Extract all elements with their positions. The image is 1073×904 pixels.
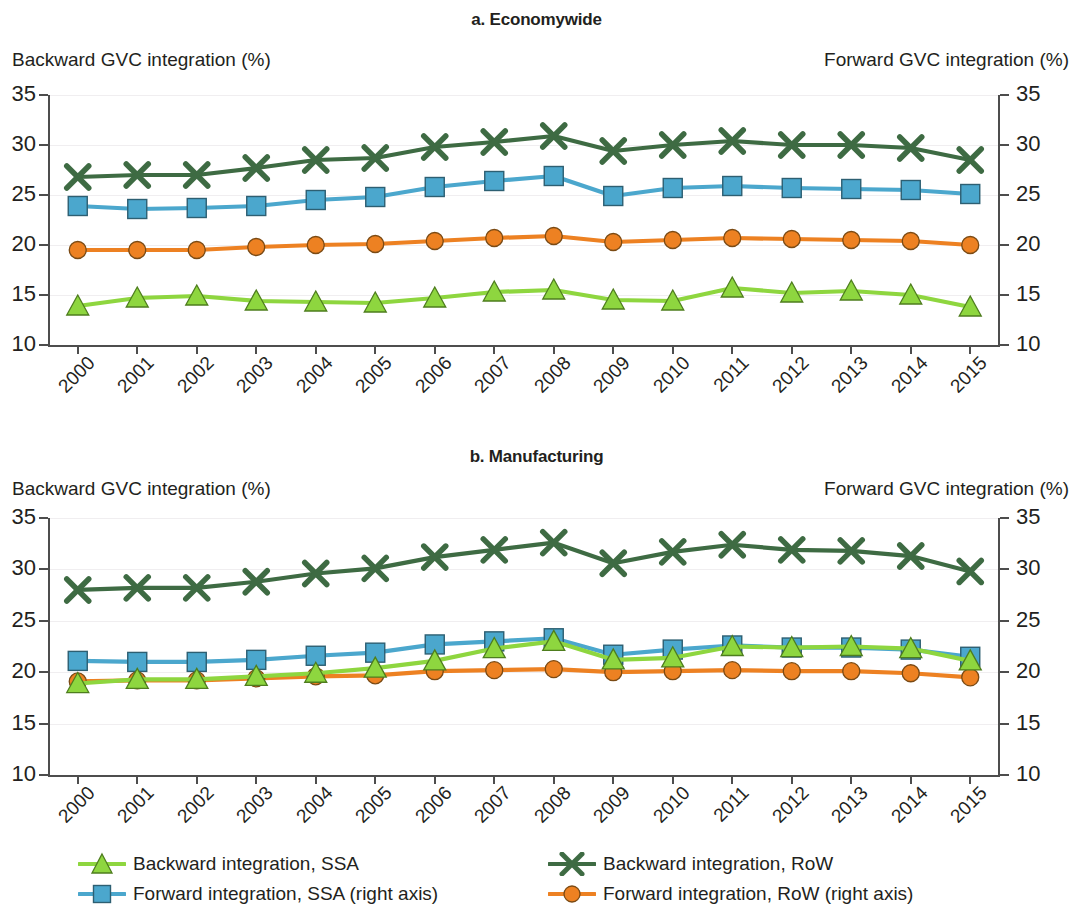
left-axis-tick — [39, 774, 48, 776]
x-axis-tick-label: 2013 — [809, 782, 873, 846]
left-axis-tick-label: 15 — [0, 712, 36, 734]
left-axis-tick-label: 35 — [0, 506, 36, 528]
x-axis-tick-label: 2012 — [750, 782, 814, 846]
bottom-axis-line — [48, 775, 1000, 777]
circle-marker — [843, 663, 860, 680]
x-axis-tick — [255, 775, 257, 784]
x-axis-tick — [910, 775, 912, 784]
circle-marker — [962, 669, 979, 686]
left-axis-tick — [39, 723, 48, 725]
x-axis-tick-label: 2001 — [95, 782, 159, 846]
x-axis-tick-label: 2004 — [274, 782, 338, 846]
x-axis-tick — [315, 775, 317, 784]
x-axis-tick — [731, 775, 733, 784]
x-axis-tick — [374, 775, 376, 784]
x-axis-tick-label: 2011 — [690, 782, 754, 846]
legend-swatch-cross-x-marker — [548, 852, 596, 876]
right-axis-tick-label: 25 — [1016, 609, 1071, 631]
x-axis-tick-label: 2015 — [928, 782, 992, 846]
right-axis-tick — [1000, 568, 1009, 570]
x-axis-tick-label: 2006 — [393, 782, 457, 846]
legend-item: Backward integration, RoW — [548, 852, 1048, 876]
series-line — [78, 543, 971, 590]
right-axis-tick-label: 15 — [1016, 712, 1071, 734]
right-axis-tick — [1000, 517, 1009, 519]
x-axis-tick-label: 2005 — [333, 782, 397, 846]
left-axis-tick-label: 25 — [0, 609, 36, 631]
x-axis-tick — [493, 775, 495, 784]
right-axis-tick — [1000, 723, 1009, 725]
circle-marker — [564, 886, 580, 902]
x-axis-tick — [136, 775, 138, 784]
circle-marker — [724, 662, 741, 679]
x-axis-tick — [969, 775, 971, 784]
left-axis-tick — [39, 620, 48, 622]
left-axis-tick — [39, 671, 48, 673]
legend-item-label: Forward integration, RoW (right axis) — [603, 883, 913, 904]
x-axis-tick-label: 2010 — [631, 782, 695, 846]
plot-area-b.: 101015152020252530303535 — [48, 518, 1000, 775]
x-axis-tick — [196, 775, 198, 784]
circle-marker — [902, 665, 919, 682]
right-axis-tick-label: 35 — [1016, 506, 1071, 528]
legend-item-label: Backward integration, SSA — [133, 853, 359, 875]
legend-item: Forward integration, SSA (right axis) — [78, 882, 548, 904]
x-axis-tick — [672, 775, 674, 784]
series-line — [78, 638, 971, 662]
x-axis-tick-label: 2000 — [36, 782, 100, 846]
left-axis-tick-label: 10 — [0, 763, 36, 785]
x-axis-tick-label: 2008 — [512, 782, 576, 846]
series-layer — [48, 518, 1000, 775]
x-axis-tick — [612, 775, 614, 784]
x-axis-tick — [850, 775, 852, 784]
legend-item-label: Backward integration, RoW — [603, 853, 833, 875]
left-axis-tick-label: 20 — [0, 660, 36, 682]
square-marker — [94, 886, 111, 903]
right-axis-tick — [1000, 620, 1009, 622]
legend-swatch-square-marker — [78, 882, 126, 904]
left-axis-tick-label: 30 — [0, 557, 36, 579]
circle-marker — [486, 662, 503, 679]
legend-swatch-triangle-up-marker — [78, 852, 126, 876]
x-axis-tick — [77, 775, 79, 784]
x-axis-tick — [553, 775, 555, 784]
right-axis-tick-label: 30 — [1016, 557, 1071, 579]
circle-marker — [545, 661, 562, 678]
series-x — [78, 543, 971, 590]
x-axis-tick-label: 2014 — [869, 782, 933, 846]
legend-item: Backward integration, SSA — [78, 852, 548, 876]
right-axis-tick-label: 10 — [1016, 763, 1071, 785]
right-axis-tick-label: 20 — [1016, 660, 1071, 682]
x-axis-tick-label: 2007 — [452, 782, 516, 846]
left-axis-tick — [39, 517, 48, 519]
legend-item: Forward integration, RoW (right axis) — [548, 882, 1048, 904]
x-axis-tick — [434, 775, 436, 784]
chart-legend: Backward integration, SSABackward integr… — [78, 849, 1058, 904]
x-axis-tick — [791, 775, 793, 784]
legend-swatch-circle-marker — [548, 882, 596, 904]
x-axis-tick-label: 2002 — [155, 782, 219, 846]
right-axis-tick — [1000, 671, 1009, 673]
series-square — [78, 638, 971, 662]
x-axis-tick-label: 2009 — [571, 782, 635, 846]
legend-item-label: Forward integration, SSA (right axis) — [133, 883, 438, 904]
square-marker — [68, 651, 87, 670]
circle-marker — [783, 663, 800, 680]
figure-root: a. Economywide Backward GVC integration … — [0, 0, 1073, 904]
left-axis-tick — [39, 568, 48, 570]
right-axis-tick — [1000, 774, 1009, 776]
x-axis-tick-label: 2003 — [214, 782, 278, 846]
panel-b-plot: 1010151520202525303035352000200120022003… — [0, 0, 1073, 860]
